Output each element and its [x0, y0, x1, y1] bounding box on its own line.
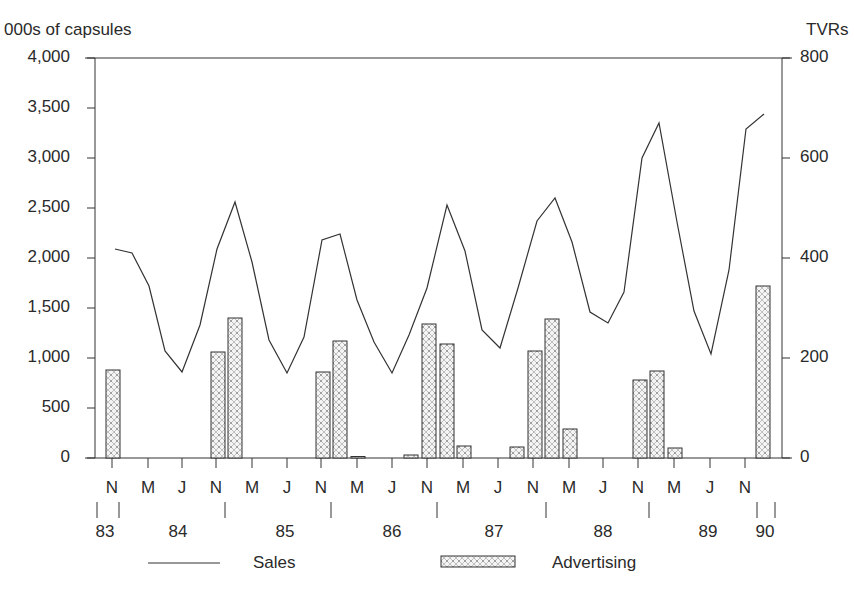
advertising-bar: [528, 351, 542, 458]
chart: 000s of capsules TVRs 4,0003,5003,0002,5…: [0, 0, 854, 596]
advertising-bar: [422, 324, 436, 458]
advertising-bars: [106, 286, 770, 458]
sales-line: [115, 114, 764, 373]
advertising-bar: [650, 371, 664, 458]
legend: [148, 556, 515, 567]
advertising-bar: [510, 447, 524, 458]
legend-advertising-label: Advertising: [552, 553, 636, 573]
advertising-bar: [211, 352, 225, 458]
advertising-bar: [563, 429, 577, 458]
advertising-bar: [545, 319, 559, 458]
advertising-bar: [457, 446, 471, 458]
advertising-bar: [756, 286, 770, 458]
plot-area: [0, 0, 854, 596]
advertising-bar: [351, 457, 365, 459]
legend-sales-label: Sales: [253, 553, 296, 573]
advertising-bar: [440, 344, 454, 458]
advertising-bar: [668, 448, 682, 458]
advertising-bar: [106, 370, 120, 458]
advertising-bar: [404, 455, 418, 458]
advertising-bar: [333, 341, 347, 458]
advertising-bar: [228, 318, 242, 458]
advertising-bar: [316, 372, 330, 458]
advertising-bar: [633, 380, 647, 458]
legend-advertising-swatch: [441, 556, 515, 567]
